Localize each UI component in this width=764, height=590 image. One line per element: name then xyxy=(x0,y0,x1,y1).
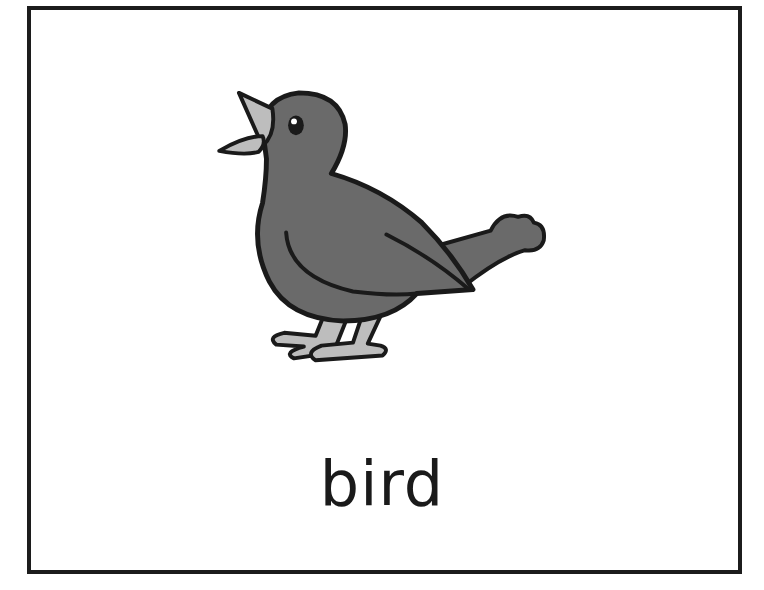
word-label: bird xyxy=(0,447,764,520)
bird-icon xyxy=(205,85,560,380)
